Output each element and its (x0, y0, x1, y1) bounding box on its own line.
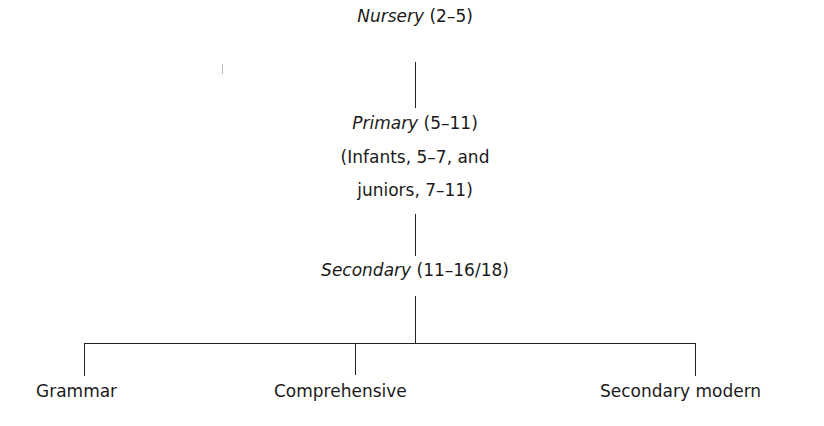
connector-nursery-primary (415, 62, 416, 108)
primary-note-1: (Infants, 5–7, and (341, 147, 490, 167)
branch-comprehensive: Comprehensive (274, 381, 407, 401)
branch-grammar: Grammar (36, 381, 117, 401)
secondary-range: (11–16/18) (417, 260, 509, 280)
node-secondary: Secondary (11–16/18) (321, 260, 509, 280)
branch-modern-line (695, 343, 696, 376)
nursery-label: Nursery (357, 6, 424, 26)
primary-label: Primary (352, 113, 418, 133)
node-primary: Primary (5–11) (352, 113, 478, 133)
branch-secondary-modern: Secondary modern (600, 381, 761, 401)
node-nursery: Nursery (2–5) (357, 6, 473, 26)
nursery-range: (2–5) (429, 6, 472, 26)
secondary-label: Secondary (321, 260, 411, 280)
primary-range: (5–11) (424, 113, 478, 133)
stray-mark (222, 64, 223, 74)
connector-primary-secondary (415, 214, 416, 256)
primary-note-2: juniors, 7–11) (357, 180, 473, 200)
branch-grammar-line (84, 343, 85, 376)
branch-bar (84, 343, 696, 344)
branch-comprehensive-line (355, 343, 356, 375)
connector-secondary-branches (415, 296, 416, 344)
